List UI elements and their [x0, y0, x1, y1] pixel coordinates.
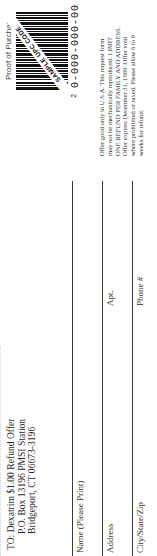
- apt-field-label: Apt.: [105, 290, 115, 306]
- city-state-zip-field-label: City/State/Zip: [135, 502, 145, 553]
- phone-field-label: Phone #: [135, 277, 145, 306]
- upc-number: 0-000-000-00: [70, 4, 81, 88]
- mailing-address: TO: Dexatrim $1.00 Refund Offer P.O. Box…: [6, 418, 38, 550]
- city-state-zip-field-line[interactable]: [132, 181, 133, 556]
- to-label: TO:: [5, 535, 16, 550]
- name-field-label: Name (Please Print): [75, 481, 85, 553]
- address-field-label: Address: [105, 524, 115, 554]
- name-field-line[interactable]: [72, 181, 73, 556]
- upc-check-digit: 2: [70, 93, 78, 98]
- address-field-line[interactable]: [102, 181, 103, 556]
- offer-terms: Offer good only in U.S.A. This request f…: [98, 26, 145, 156]
- offer-name: Dexatrim $1.00 Refund Offer: [5, 418, 16, 532]
- address-line-3: Bridgeport, CT 06673-3196: [27, 418, 38, 550]
- address-line-1: TO: Dexatrim $1.00 Refund Offer: [6, 418, 17, 550]
- refund-coupon: TO: Dexatrim $1.00 Refund Offer P.O. Box…: [0, 0, 157, 556]
